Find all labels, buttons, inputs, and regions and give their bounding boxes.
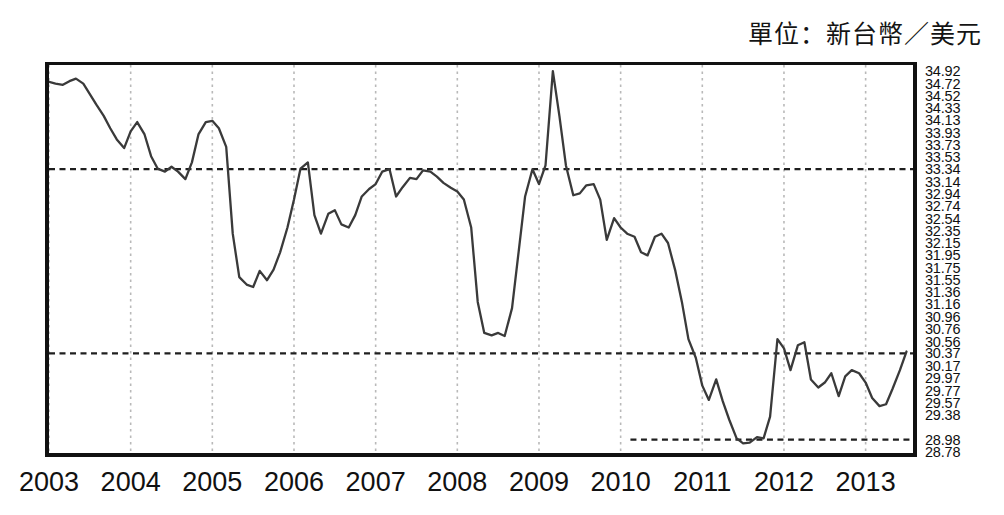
x-tick-label: 2012 — [754, 466, 814, 498]
x-tick-label: 2003 — [19, 466, 79, 498]
unit-caption: 單位：新台幣／美元 — [748, 20, 982, 50]
x-tick-label: 2008 — [427, 466, 487, 498]
x-tick-label: 2005 — [182, 466, 242, 498]
exchange-rate-chart: 單位：新台幣／美元 34.9234.7234.5234.3334.1333.93… — [0, 0, 1004, 515]
x-tick-label: 2007 — [346, 466, 406, 498]
data-series-line — [49, 71, 906, 443]
plot-svg — [49, 65, 913, 452]
x-tick-label: 2013 — [836, 466, 896, 498]
plot-area — [45, 62, 917, 457]
x-tick-label: 2006 — [264, 466, 324, 498]
y-axis: 34.9234.7234.5234.3334.1333.9333.7333.53… — [925, 62, 1000, 462]
y-tick-label: 28.78 — [925, 445, 960, 460]
x-tick-label: 2010 — [591, 466, 651, 498]
x-axis: 2003200420052006200720082009201020112012… — [0, 466, 1004, 511]
y-tick-label: 29.38 — [925, 408, 960, 423]
x-tick-label: 2004 — [101, 466, 161, 498]
x-tick-label: 2011 — [673, 466, 731, 498]
x-tick-label: 2009 — [509, 466, 569, 498]
